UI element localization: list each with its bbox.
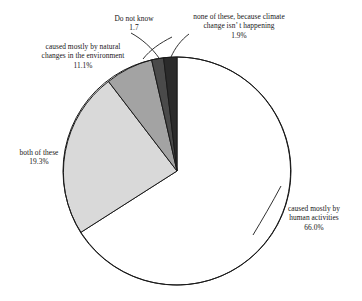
pie-label-human-activities-value: 66.0% xyxy=(278,223,350,232)
pie-label-both-of-these-text: both of these xyxy=(8,148,70,157)
pie-label-human-activities: caused mostly by human activities 66.0% xyxy=(278,204,350,232)
pie-label-none-of-these-line1: none of these, because climate xyxy=(166,12,312,21)
pie-chart-figure: Do not know 1.7 none of these, because c… xyxy=(0,0,362,301)
pie-label-both-of-these-value: 19.3% xyxy=(8,157,70,166)
pie-label-natural-changes: caused mostly by natural changes in the … xyxy=(16,42,150,70)
pie-label-do-not-know-text: Do not know xyxy=(96,14,172,23)
pie-label-natural-changes-line1: caused mostly by natural xyxy=(16,42,150,51)
pie-label-natural-changes-line2: changes in the environment xyxy=(16,51,150,60)
pie-label-both-of-these: both of these 19.3% xyxy=(8,148,70,167)
pie-label-human-activities-line1: caused mostly by xyxy=(278,204,350,213)
pie-label-natural-changes-value: 11.1% xyxy=(16,61,150,70)
pie-label-none-of-these: none of these, because climate change is… xyxy=(166,12,312,40)
pie-label-none-of-these-value: 1.9% xyxy=(166,31,312,40)
pie-label-human-activities-line2: human activities xyxy=(278,213,350,222)
pie-label-do-not-know-value: 1.7 xyxy=(96,23,172,32)
pie-slices xyxy=(63,57,290,285)
pie-label-do-not-know: Do not know 1.7 xyxy=(96,14,172,33)
pie-label-none-of-these-line2: change isn’ t happening xyxy=(166,21,312,30)
